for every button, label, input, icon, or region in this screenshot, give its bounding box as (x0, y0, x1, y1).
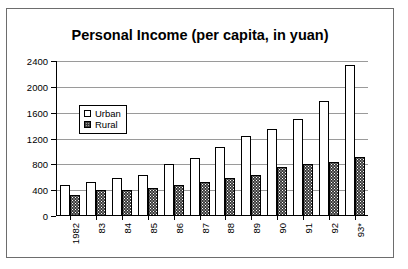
legend-label-rural: Rural (95, 119, 118, 130)
bar-urban (190, 158, 200, 216)
y-axis-tick (51, 61, 56, 62)
y-axis-tick (51, 87, 56, 88)
bar-rural (148, 188, 158, 216)
x-axis-tick-label: 86 (174, 223, 185, 234)
bar-rural (355, 157, 365, 216)
bar-rural (122, 190, 132, 216)
x-axis-tick-label: 83 (96, 223, 107, 234)
x-axis-tick (148, 216, 149, 220)
x-axis-tick (70, 216, 71, 220)
x-axis-tick (303, 216, 304, 220)
x-axis-tick (200, 216, 201, 220)
bar-urban (345, 65, 355, 216)
bar-rural (303, 164, 313, 216)
x-axis-tick-label: 84 (122, 223, 133, 234)
hollow-square-icon (84, 110, 91, 117)
x-axis-tick-label: 91 (303, 223, 314, 234)
bar-urban (267, 129, 277, 216)
y-axis-tick (51, 190, 56, 191)
legend-item-rural: Rural (84, 119, 121, 130)
bar-group: 89 (238, 61, 264, 216)
y-axis-tick (51, 113, 56, 114)
bar-urban (215, 147, 225, 216)
bar-rural (329, 162, 339, 216)
bar-group: 1982 (57, 61, 83, 216)
bar-urban (112, 178, 122, 216)
bar-group: 93* (342, 61, 368, 216)
x-axis-tick-label: 1982 (70, 223, 81, 244)
bar-rural (225, 178, 235, 216)
bar-rural (96, 190, 106, 216)
x-axis-tick (355, 216, 356, 220)
x-axis-tick (251, 216, 252, 220)
y-axis-tick-label: 2400 (27, 56, 48, 67)
legend-label-urban: Urban (95, 108, 121, 119)
bar-group: 90 (264, 61, 290, 216)
x-axis-tick-label: 89 (251, 223, 262, 234)
bar-urban (319, 101, 329, 216)
x-axis-tick-label: 87 (200, 223, 211, 234)
y-axis-tick-label: 400 (32, 185, 48, 196)
chart-title: Personal Income (per capita, in yuan) (7, 27, 393, 43)
y-axis-tick (51, 164, 56, 165)
y-axis-tick-label: 1200 (27, 133, 48, 144)
chart-frame: Personal Income (per capita, in yuan) 04… (6, 8, 394, 258)
bar-urban (138, 175, 148, 216)
stippled-square-icon (84, 121, 91, 128)
bar-group: 91 (290, 61, 316, 216)
bar-group: 84 (109, 61, 135, 216)
x-axis-tick (174, 216, 175, 220)
x-axis-tick-label: 92 (329, 223, 340, 234)
bar-rural (251, 175, 261, 216)
bar-urban (164, 164, 174, 216)
bar-urban (293, 119, 303, 216)
x-axis-tick (225, 216, 226, 220)
y-axis-tick-label: 800 (32, 159, 48, 170)
bar-group: 88 (213, 61, 239, 216)
y-axis-tick-label: 0 (43, 211, 48, 222)
bar-group: 83 (83, 61, 109, 216)
bar-urban (241, 136, 251, 216)
bar-rural (200, 182, 210, 216)
x-axis-tick (96, 216, 97, 220)
plot-area: 04008001200160020002400 1982838485868788… (56, 61, 368, 216)
x-axis-tick (277, 216, 278, 220)
x-axis-tick-label: 90 (277, 223, 288, 234)
bar-group: 87 (187, 61, 213, 216)
x-axis-tick-label: 85 (148, 223, 159, 234)
bar-groups: 19828384858687888990919293* (57, 61, 368, 216)
y-axis-tick (51, 216, 56, 217)
y-axis-tick (51, 139, 56, 140)
bar-group: 92 (316, 61, 342, 216)
x-axis-tick (329, 216, 330, 220)
bar-group: 86 (161, 61, 187, 216)
bar-urban (60, 185, 70, 216)
y-axis-tick-label: 1600 (27, 107, 48, 118)
bar-rural (277, 167, 287, 216)
x-axis-tick-label: 93* (355, 223, 366, 237)
bar-rural (70, 195, 80, 216)
x-axis-tick (122, 216, 123, 220)
legend-item-urban: Urban (84, 108, 121, 119)
chart-legend: Urban Rural (79, 105, 127, 134)
y-axis-tick-label: 2000 (27, 81, 48, 92)
x-axis-tick-label: 88 (225, 223, 236, 234)
bar-group: 85 (135, 61, 161, 216)
bar-rural (174, 185, 184, 216)
bar-urban (86, 182, 96, 216)
